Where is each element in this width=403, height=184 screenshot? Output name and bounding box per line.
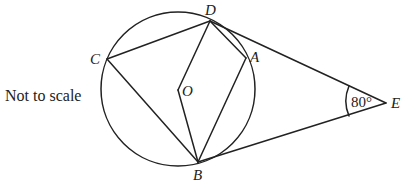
point-label-A: A	[249, 49, 260, 65]
point-label-E: E	[390, 95, 400, 111]
point-label-C: C	[90, 51, 101, 67]
segment-AB	[198, 58, 246, 162]
point-label-B: B	[193, 167, 202, 183]
angle-label-E: 80°	[351, 94, 372, 110]
not-to-scale-note: Not to scale	[5, 87, 81, 104]
segment-DA	[210, 21, 246, 58]
tangent-BE	[198, 103, 386, 162]
tangent-DE	[210, 21, 386, 103]
angle-arc-E	[346, 86, 349, 116]
point-label-D: D	[204, 2, 216, 18]
geometry-diagram: Not to scale 80° D C A O B E	[0, 0, 403, 184]
point-label-O: O	[182, 83, 193, 99]
